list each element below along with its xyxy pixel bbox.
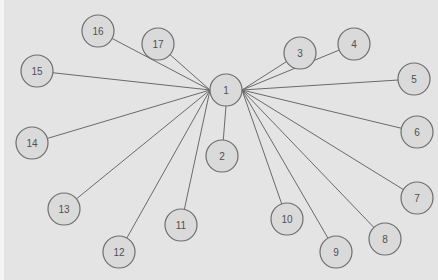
- edge-1-15: [53, 73, 210, 90]
- node-label: 10: [281, 214, 293, 225]
- edge-1-2: [223, 106, 226, 140]
- node-16[interactable]: 16: [82, 15, 114, 47]
- node-13[interactable]: 13: [48, 193, 80, 225]
- node-label: 13: [58, 204, 70, 215]
- node-label: 1: [223, 85, 229, 96]
- node-6[interactable]: 6: [401, 116, 433, 148]
- node-3[interactable]: 3: [284, 37, 316, 69]
- edge-1-14: [47, 90, 210, 138]
- node-10[interactable]: 10: [271, 203, 303, 235]
- node-label: 17: [152, 39, 164, 50]
- edge-1-3: [242, 62, 287, 90]
- node-label: 4: [351, 39, 357, 50]
- node-label: 14: [26, 138, 38, 149]
- edges-layer: [47, 38, 403, 238]
- node-7[interactable]: 7: [401, 182, 433, 214]
- node-8[interactable]: 8: [369, 223, 401, 255]
- diagram-canvas: 1234567891011121314151617: [4, 0, 438, 280]
- node-label: 9: [333, 247, 339, 258]
- node-label: 2: [219, 151, 225, 162]
- node-label: 5: [411, 74, 417, 85]
- node-label: 6: [414, 127, 420, 138]
- node-11[interactable]: 11: [165, 209, 197, 241]
- node-label: 8: [382, 234, 388, 245]
- node-12[interactable]: 12: [103, 236, 135, 268]
- node-1[interactable]: 1: [210, 74, 242, 106]
- node-label: 7: [414, 193, 420, 204]
- node-4[interactable]: 4: [338, 28, 370, 60]
- node-2[interactable]: 2: [206, 140, 238, 172]
- node-label: 3: [297, 48, 303, 59]
- node-15[interactable]: 15: [21, 55, 53, 87]
- node-9[interactable]: 9: [320, 236, 352, 268]
- node-label: 16: [92, 26, 104, 37]
- star-graph: 1234567891011121314151617: [4, 0, 438, 280]
- edge-1-5: [242, 80, 398, 90]
- node-label: 15: [31, 66, 43, 77]
- edge-1-6: [242, 90, 401, 128]
- node-5[interactable]: 5: [398, 63, 430, 95]
- nodes-layer: 1234567891011121314151617: [16, 15, 433, 268]
- node-14[interactable]: 14: [16, 127, 48, 159]
- node-17[interactable]: 17: [142, 28, 174, 60]
- node-label: 12: [113, 247, 125, 258]
- node-label: 11: [176, 220, 187, 231]
- edge-1-10: [242, 90, 282, 204]
